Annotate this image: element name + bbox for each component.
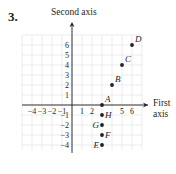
coordinate-plane: −4−3−2−11256654321−1−2−3−4ABCDEFGH bbox=[0, 0, 176, 174]
data-point-b bbox=[110, 83, 114, 87]
x-tick-label: 5 bbox=[120, 107, 124, 116]
x-tick-label: −4 bbox=[28, 107, 37, 116]
point-label-a: A bbox=[104, 94, 111, 104]
data-point-f bbox=[100, 133, 104, 137]
y-tick-label: 3 bbox=[65, 71, 69, 80]
x-tick-label: 1 bbox=[80, 107, 84, 116]
y-tick-label: 1 bbox=[65, 91, 69, 100]
y-tick-label: 2 bbox=[65, 81, 69, 90]
data-point-e bbox=[100, 143, 104, 147]
point-label-h: H bbox=[104, 110, 112, 120]
point-label-b: B bbox=[115, 74, 121, 84]
y-tick-label: −1 bbox=[60, 111, 69, 120]
data-point-d bbox=[130, 43, 134, 47]
y-tick-label: −2 bbox=[60, 121, 69, 130]
point-label-g: G bbox=[93, 120, 100, 130]
point-label-d: D bbox=[134, 34, 142, 44]
x-tick-label: 2 bbox=[90, 107, 94, 116]
x-tick-label: −2 bbox=[48, 107, 57, 116]
x-tick-label: −3 bbox=[38, 107, 47, 116]
data-point-h bbox=[100, 113, 104, 117]
point-label-e: E bbox=[93, 140, 100, 150]
point-label-c: C bbox=[125, 54, 132, 64]
data-point-c bbox=[120, 63, 124, 67]
data-point-a bbox=[100, 103, 104, 107]
point-label-f: F bbox=[104, 130, 111, 140]
y-tick-label: 4 bbox=[65, 61, 69, 70]
data-point-g bbox=[100, 123, 104, 127]
y-tick-label: 6 bbox=[65, 41, 69, 50]
y-tick-label: −3 bbox=[60, 131, 69, 140]
x-tick-label: 6 bbox=[130, 107, 134, 116]
y-tick-label: 5 bbox=[65, 51, 69, 60]
y-tick-label: −4 bbox=[60, 141, 69, 150]
